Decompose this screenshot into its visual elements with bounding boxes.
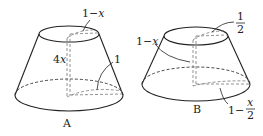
frustum-b-top-radius-label: 1 2 xyxy=(236,10,245,36)
frustum-b-top-radius-leader xyxy=(212,22,234,32)
frustum-b-height-leader xyxy=(155,44,190,62)
frustum-a-top-face xyxy=(39,26,99,42)
frustum-a-top-radius-line xyxy=(70,33,98,34)
frustum-a-bottom-radius-label: 1 xyxy=(114,53,121,66)
frustum-b-bottom-cut-curve xyxy=(193,81,249,86)
svg-text:1: 1 xyxy=(237,10,244,23)
frustum-b-caption: B xyxy=(193,103,201,116)
frustum-a-top-radius-leader xyxy=(83,20,90,31)
svg-text:x: x xyxy=(247,96,254,109)
frustum-a-caption: A xyxy=(62,117,72,130)
frustum-a-bottom-cut-curve xyxy=(67,89,122,97)
frustum-b-top-radius-line xyxy=(196,35,227,36)
frustum-b-right-side xyxy=(228,36,250,84)
frustum-a-left-side xyxy=(15,34,39,95)
frustum-a-bottom-radius-leader xyxy=(97,62,113,90)
frustum-a: 1−x 4x 1 A xyxy=(15,7,123,130)
diagram-canvas: 1−x 4x 1 A 1 2 1−x B 1− xyxy=(0,0,263,136)
frustum-b-bottom-radius-leader xyxy=(220,88,228,104)
frustum-a-bottom-back-edge xyxy=(15,79,123,95)
frustum-b-bottom-front-edge xyxy=(142,84,250,101)
svg-text:2: 2 xyxy=(237,23,244,36)
frustum-b-bottom-radius-label: 1− x 2 xyxy=(228,96,255,122)
frustum-a-bottom-front-edge xyxy=(15,95,123,111)
frustum-b: 1 2 1−x B 1− x 2 xyxy=(136,10,255,122)
frustum-b-height-label: 1−x xyxy=(136,35,159,48)
svg-text:1−: 1− xyxy=(228,104,244,117)
svg-text:2: 2 xyxy=(247,109,254,122)
frustum-a-height-label: 4x xyxy=(53,53,67,66)
frustum-a-bottom-radius-line xyxy=(70,94,122,95)
frustum-a-top-radius-label: 1−x xyxy=(82,7,105,20)
